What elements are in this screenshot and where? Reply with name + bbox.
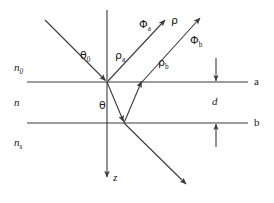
ray-label-rho-b: ρb [158,57,169,68]
medium-label-n: n [14,97,20,108]
ray-label-phi-b-glyph: Φ [190,34,199,47]
medium-label-n0-glyph: n [14,61,20,73]
ray-diagram-canvas [0,0,274,203]
thickness-label-d-glyph: d [212,95,218,107]
ray-label-phi-b: Φb [190,35,202,46]
ray-label-phi-a-glyph: Φ [139,18,148,31]
medium-label-n-glyph: n [14,96,20,108]
angle-label-theta0-glyph: θ [80,49,87,62]
medium-label-ns-glyph: n [14,136,20,148]
incident-ray [45,20,106,81]
ray-label-phi-b-subscript: b [199,41,203,49]
angle-label-theta0: θ0 [80,50,90,61]
medium-label-n0: n0 [14,62,23,73]
optics-ray-diagram: n0 n ns a b d z θ0 θ ρa ρb Φa Φb [0,0,274,203]
thickness-label-d: d [212,96,218,107]
ray-label-rho-a-subscript: a [122,56,125,64]
interface-label-b-glyph: b [254,116,260,128]
interface-label-a: a [254,76,259,87]
angle-label-theta-glyph: θ [99,99,106,112]
axis-label-z: z [113,172,117,183]
axis-label-z-glyph: z [113,171,117,183]
angle-label-theta: θ [99,100,106,111]
ray-label-rho-glyph: ρ [171,14,178,27]
interface-label-b: b [254,117,260,128]
interface-label-a-glyph: a [254,75,259,87]
refracted-ray-in-film [107,82,124,122]
ray-label-rho: ρ [171,15,178,26]
ray-label-rho-a-glyph: ρ [115,49,122,62]
ray-label-phi-a-subscript: a [148,25,151,33]
ray-label-rho-b-glyph: ρ [158,56,165,69]
internally-reflected-ray [124,82,142,124]
medium-label-ns: ns [14,137,22,148]
angle-label-theta0-subscript: 0 [87,56,91,64]
ray-label-rho-b-subscript: b [165,63,169,71]
ray-label-rho-a: ρa [115,50,125,61]
transmitted-ray [124,123,186,184]
ray-label-phi-a: Φa [139,19,151,30]
medium-label-ns-subscript: s [20,143,23,151]
medium-label-n0-subscript: 0 [20,68,24,76]
